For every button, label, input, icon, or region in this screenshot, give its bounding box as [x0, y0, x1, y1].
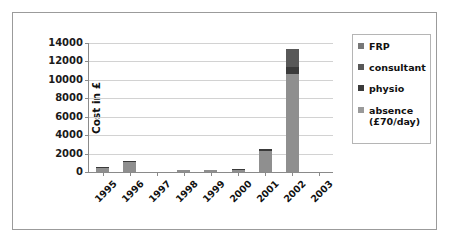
- bar-2001[interactable]: [259, 149, 272, 172]
- legend-label: absence(£70/day): [369, 105, 420, 127]
- y-axis-tick: [85, 154, 89, 155]
- y-axis-tick: [85, 172, 89, 173]
- legend-swatch-icon: [358, 64, 364, 70]
- y-axis-tick-label: 14000: [48, 38, 83, 48]
- x-axis-tick: [184, 172, 185, 176]
- legend-item-frp[interactable]: FRP: [358, 41, 426, 52]
- y-axis-tick: [85, 61, 89, 62]
- bar-segment: [123, 162, 136, 172]
- bar-segment: [286, 49, 299, 67]
- y-axis-tick-label: 4000: [55, 130, 83, 140]
- plot-area: 0200040006000800010000120001400019951996…: [88, 43, 333, 173]
- chart-figure: Cost in £ 020004000600080001000012000140…: [12, 12, 437, 230]
- bar-segment: [286, 67, 299, 74]
- x-axis-tick: [265, 172, 266, 176]
- gridline: [89, 43, 333, 44]
- y-axis-tick-label: 12000: [48, 56, 83, 66]
- y-axis-tick-label: 10000: [48, 75, 83, 85]
- x-axis-tick: [292, 172, 293, 176]
- x-axis-label-1997: 1997: [146, 178, 172, 204]
- x-axis-tick: [319, 172, 320, 176]
- y-axis-tick: [85, 117, 89, 118]
- x-axis-tick: [103, 172, 104, 176]
- bar-segment: [259, 151, 272, 172]
- x-axis-tick: [211, 172, 212, 176]
- legend-label: physio: [369, 83, 404, 94]
- y-axis-tick: [85, 98, 89, 99]
- legend-label: consultant: [369, 62, 426, 73]
- bar-2002[interactable]: [286, 49, 299, 172]
- legend-label: FRP: [369, 41, 390, 52]
- chart-legend: FRPconsultantphysioabsence(£70/day): [352, 34, 431, 144]
- y-axis-tick-label: 2000: [55, 149, 83, 159]
- legend-swatch-icon: [358, 43, 364, 49]
- y-axis-tick-label: 0: [76, 167, 83, 177]
- x-axis-label-1995: 1995: [92, 178, 118, 204]
- x-axis-label-1996: 1996: [119, 178, 145, 204]
- legend-item-consultant[interactable]: consultant: [358, 62, 426, 73]
- bar-1996[interactable]: [123, 161, 136, 172]
- legend-swatch-icon: [358, 85, 364, 91]
- x-axis-label-2001: 2001: [255, 178, 281, 204]
- x-axis-label-1998: 1998: [173, 178, 199, 204]
- x-axis-tick: [238, 172, 239, 176]
- legend-swatch-icon: [358, 107, 364, 113]
- bar-segment: [286, 74, 299, 172]
- x-axis-label-2000: 2000: [227, 178, 253, 204]
- y-axis-tick: [85, 135, 89, 136]
- y-axis-tick-label: 6000: [55, 112, 83, 122]
- x-axis-label-2003: 2003: [309, 178, 335, 204]
- x-axis-tick: [130, 172, 131, 176]
- x-axis-label-2002: 2002: [282, 178, 308, 204]
- y-axis-tick-label: 8000: [55, 93, 83, 103]
- y-axis-tick: [85, 43, 89, 44]
- x-axis-label-1999: 1999: [200, 178, 226, 204]
- x-axis-tick: [157, 172, 158, 176]
- y-axis-tick: [85, 80, 89, 81]
- legend-item-absence[interactable]: absence(£70/day): [358, 105, 426, 127]
- legend-item-physio[interactable]: physio: [358, 83, 426, 94]
